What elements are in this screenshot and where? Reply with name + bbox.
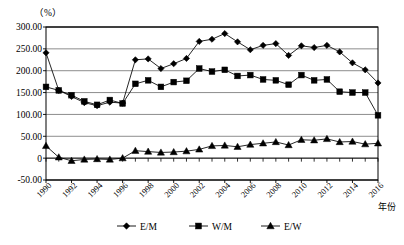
data-point-marker [107, 97, 113, 103]
x-axis-tick-label: 1994 [85, 180, 105, 200]
data-point-marker [145, 77, 151, 83]
data-point-marker [260, 77, 266, 83]
x-axis-tick-label: 2012 [315, 180, 334, 199]
data-point-marker [209, 36, 215, 42]
x-axis-tick-label: 1998 [136, 180, 155, 199]
data-point-marker [247, 72, 253, 78]
line-chart-canvas: -50.00050.00100.00150.00200.00250.00300.… [0, 0, 404, 245]
data-point-marker [183, 55, 189, 61]
data-point-marker [209, 69, 215, 75]
x-axis-tick-label: 2000 [162, 180, 181, 199]
data-point-marker [286, 82, 292, 88]
data-point-marker [81, 98, 87, 104]
x-axis-tick-label: 2014 [341, 180, 361, 200]
series-line-w-m [46, 69, 378, 116]
data-point-marker [43, 50, 49, 56]
data-point-marker [42, 142, 49, 148]
data-point-marker [337, 89, 343, 95]
data-point-marker [247, 47, 253, 53]
data-point-marker [234, 39, 240, 45]
y-axis-tick-label: 300.00 [16, 22, 42, 32]
legend-marker-triangle-icon [267, 222, 274, 228]
y-axis-tick-label: -50.00 [17, 175, 42, 185]
data-point-marker [94, 102, 100, 108]
data-point-marker [196, 38, 202, 44]
data-point-marker [69, 92, 75, 98]
data-point-marker [133, 81, 139, 87]
legend-item-w-m[interactable]: W/M [189, 222, 233, 232]
legend-marker-diamond-icon [123, 223, 129, 229]
legend-marker-square-icon [196, 223, 202, 229]
data-point-marker [56, 88, 62, 94]
data-point-marker [324, 42, 330, 48]
data-point-marker [350, 90, 356, 96]
x-axis-tick-label: 1992 [60, 180, 79, 199]
data-point-marker [298, 136, 305, 142]
x-axis-title: 年份 [378, 200, 396, 213]
x-axis-tick-label: 2010 [290, 180, 309, 199]
legend-label: W/M [212, 222, 233, 232]
legend-item-e-m[interactable]: E/M [117, 222, 157, 232]
x-axis-tick-label: 2002 [188, 180, 207, 199]
data-point-marker [120, 101, 126, 107]
y-axis-tick-label: 200.00 [16, 66, 42, 76]
chart-figure: （%） -50.00050.00100.00150.00200.00250.00… [0, 0, 404, 245]
data-point-marker [272, 138, 279, 144]
x-axis-tick-label: 1996 [111, 180, 130, 199]
data-point-marker [260, 42, 266, 48]
data-point-marker [273, 77, 279, 83]
data-point-marker [311, 77, 317, 83]
data-point-marker [171, 61, 177, 67]
data-point-marker [311, 44, 317, 50]
legend-item-e-w[interactable]: E/W [261, 222, 301, 232]
data-point-marker [184, 78, 190, 84]
x-axis-tick-label: 2006 [239, 180, 258, 199]
data-point-marker [222, 67, 228, 73]
data-point-marker [375, 112, 381, 118]
data-point-marker [221, 142, 228, 148]
y-axis-tick-label: 150.00 [16, 88, 42, 98]
data-point-marker [362, 90, 368, 96]
y-axis-tick-label: 250.00 [16, 44, 42, 54]
data-point-marker [222, 30, 228, 36]
data-point-marker [349, 138, 356, 144]
x-axis-tick-label: 2008 [264, 180, 283, 199]
legend-label: E/W [284, 222, 301, 232]
data-point-marker [299, 72, 305, 78]
y-axis-tick-label: 100.00 [16, 110, 42, 120]
y-axis-tick-label: 0 [37, 154, 42, 164]
y-axis-tick-label: 50.00 [21, 132, 43, 142]
data-point-marker [374, 140, 381, 146]
data-point-marker [158, 84, 164, 90]
data-point-marker [43, 84, 49, 90]
x-axis-tick-label: 2004 [213, 180, 233, 200]
data-point-marker [145, 56, 151, 62]
data-point-marker [235, 73, 241, 79]
legend-label: E/M [140, 222, 157, 232]
data-point-marker [196, 66, 202, 72]
data-point-marker [132, 57, 138, 63]
x-axis-tick-label: 2016 [366, 180, 385, 199]
data-point-marker [298, 43, 304, 49]
data-point-marker [132, 147, 139, 153]
data-point-marker [324, 77, 330, 83]
data-point-marker [171, 79, 177, 85]
